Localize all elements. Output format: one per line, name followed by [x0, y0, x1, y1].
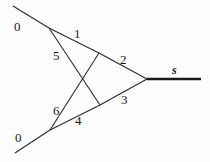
label-bottom-zero: 0: [15, 130, 22, 145]
label-edge-2: 2: [120, 52, 127, 67]
label-edge-6: 6: [53, 103, 60, 118]
label-output-s: s: [171, 63, 177, 77]
label-top-zero: 0: [14, 19, 21, 34]
network-diagram: 0 1 5 2 s 3 6 4 0: [0, 0, 210, 162]
label-edge-3: 3: [121, 92, 128, 107]
label-edge-1: 1: [74, 26, 81, 41]
label-edge-4: 4: [75, 113, 82, 128]
label-edge-5: 5: [53, 48, 60, 63]
diagram-canvas: 0 1 5 2 s 3 6 4 0: [0, 0, 210, 162]
